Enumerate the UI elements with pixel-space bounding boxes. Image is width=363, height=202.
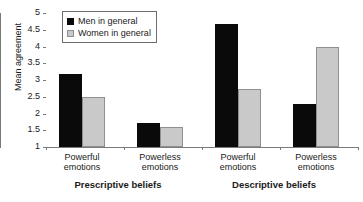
y-axis-tick-label: 3 (14, 75, 40, 84)
legend-item-men: Men in general (67, 15, 151, 27)
category-label: Powerless emotions (120, 152, 200, 172)
bar-women (316, 47, 339, 148)
y-axis-tick-label: 4.5 (14, 25, 40, 34)
legend: Men in general Women in general (62, 11, 157, 43)
legend-swatch-icon (67, 18, 74, 25)
bar-women (82, 97, 105, 147)
bar-men (293, 104, 316, 147)
legend-item-women: Women in general (67, 27, 151, 39)
y-axis-tick-label: 5 (14, 8, 40, 17)
y-axis-tick-label: 1 (14, 142, 40, 151)
bar-women (238, 89, 261, 147)
bar-women (160, 127, 183, 147)
y-axis-tick-label: 4 (14, 42, 40, 51)
x-axis-separator (280, 147, 281, 150)
group-label-descriptive: Descriptive beliefs (199, 179, 349, 190)
legend-swatch-icon (67, 30, 74, 37)
bar-chart: Mean agreement 54.543.532.521.51 Men in … (0, 0, 363, 202)
category-label-line2: emotions (120, 162, 200, 172)
category-label-line1: Powerful (198, 152, 278, 162)
y-axis-line (0, 13, 1, 148)
category-label-line2: emotions (198, 162, 278, 172)
legend-label-women: Women in general (78, 29, 151, 38)
category-label: Powerful emotions (198, 152, 278, 172)
category-label: Powerless emotions (276, 152, 356, 172)
category-label-line2: emotions (276, 162, 356, 172)
category-label-line1: Powerless (276, 152, 356, 162)
x-axis-separator (358, 147, 359, 150)
x-axis-separator (124, 147, 125, 150)
bar-men (215, 24, 238, 147)
x-axis-separator (202, 147, 203, 150)
y-axis-tick-label: 2.5 (14, 92, 40, 101)
x-axis-separator (46, 147, 47, 150)
category-label-line1: Powerless (120, 152, 200, 162)
group-label-prescriptive: Prescriptive beliefs (43, 179, 193, 190)
bar-group (215, 13, 261, 147)
legend-label-men: Men in general (78, 17, 138, 26)
category-label-line1: Powerful (42, 152, 122, 162)
bar-group (293, 13, 339, 147)
bar-men (137, 123, 160, 147)
bar-men (59, 74, 82, 147)
category-label-line2: emotions (42, 162, 122, 172)
y-axis-tick-label: 2 (14, 109, 40, 118)
y-axis-tick-label: 3.5 (14, 58, 40, 67)
category-label: Powerful emotions (42, 152, 122, 172)
y-axis-tick-label: 1.5 (14, 125, 40, 134)
